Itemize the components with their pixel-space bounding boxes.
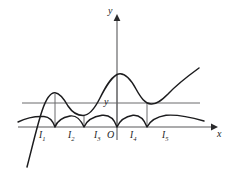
main-function-curve xyxy=(27,68,199,167)
origin-label: O xyxy=(107,130,114,140)
reference-line-label: y xyxy=(104,97,108,107)
x-axis-label: x xyxy=(217,129,221,139)
scalloped-lower-curve xyxy=(18,115,204,127)
interval-label-5-sub: 5 xyxy=(165,135,168,142)
figure-canvas xyxy=(0,0,232,172)
interval-label-2: I2 xyxy=(68,131,74,142)
interval-label-2-sub: 2 xyxy=(71,135,74,142)
interval-label-4-sub: 4 xyxy=(133,135,136,142)
y-axis-arrow-icon xyxy=(114,14,121,21)
interval-label-3-sub: 3 xyxy=(97,135,100,142)
interval-label-4: I4 xyxy=(130,131,136,142)
interval-label-3: I3 xyxy=(94,131,100,142)
y-axis-label: y xyxy=(108,6,112,16)
interval-label-1-sub: 1 xyxy=(42,135,45,142)
interval-label-1: I1 xyxy=(39,131,45,142)
interval-label-5: I5 xyxy=(162,131,168,142)
math-figure: y x y O I1 I2 I3 I4 I5 xyxy=(0,0,232,172)
